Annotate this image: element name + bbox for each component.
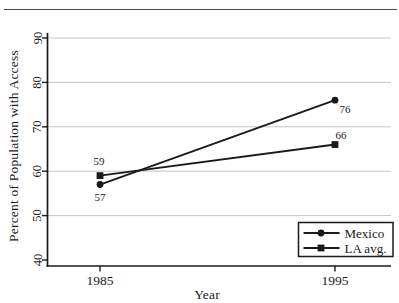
legend-square-marker — [318, 245, 325, 252]
square-marker — [97, 172, 104, 179]
x-tick-label: 1985 — [87, 273, 114, 288]
y-tick-label: 70 — [31, 121, 45, 134]
square-marker — [332, 141, 339, 148]
circle-marker — [97, 181, 104, 188]
line-chart: 4050607080901985199557765966MexicoLA avg… — [0, 0, 399, 303]
y-tick-label: 50 — [31, 209, 45, 222]
y-tick-label: 40 — [31, 254, 45, 267]
legend-circle-marker — [318, 230, 325, 237]
y-tick-label: 80 — [31, 76, 45, 89]
series-mexico: 5776 — [95, 97, 352, 203]
point-label: 76 — [340, 103, 352, 115]
x-tick-label: 1995 — [322, 273, 349, 288]
x-axis-title: Year — [194, 287, 220, 303]
point-label: 59 — [94, 155, 106, 167]
figure: 4050607080901985199557765966MexicoLA avg… — [0, 0, 399, 303]
y-tick-label: 60 — [31, 165, 45, 178]
y-axis-title: Percent of Population with Access — [6, 50, 22, 242]
legend-label: Mexico — [345, 226, 385, 241]
point-label: 57 — [95, 191, 107, 203]
legend: MexicoLA avg. — [299, 223, 394, 257]
point-label: 66 — [336, 129, 348, 141]
legend-label: LA avg. — [345, 241, 387, 256]
y-tick-label: 90 — [31, 32, 45, 45]
circle-marker — [332, 97, 339, 104]
